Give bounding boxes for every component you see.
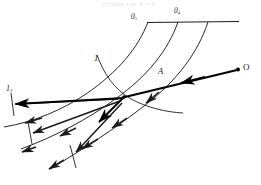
figure-canvas: статьи где θ = θ₀ — [0, 0, 261, 185]
radial-left-arrows — [15, 99, 122, 152]
principal-ray-arrow — [181, 77, 205, 83]
convergence-point — [122, 95, 126, 99]
ray-arrowheads — [22, 92, 159, 169]
label-wavefront-right: 04 — [174, 7, 180, 15]
ray-curve-2 — [21, 22, 178, 149]
arrow-curve3-outer — [49, 160, 64, 169]
ray-curve-1 — [4, 22, 148, 127]
arrow-down-left — [99, 97, 124, 122]
wavefront-line — [147, 22, 239, 23]
label-ray-one: 1 — [94, 54, 98, 63]
arrow-curve3-top — [146, 92, 159, 103]
ray-diagram-svg — [0, 0, 261, 185]
label-wavefront-left: 01 — [131, 13, 137, 21]
label-point-a-upper: A — [158, 67, 163, 76]
arrow-curve1-outer — [25, 118, 42, 123]
label-origin-o: O — [243, 63, 250, 72]
arrow-curve2-mid — [60, 128, 76, 136]
arrow-toward-a — [181, 77, 205, 83]
origin-dot — [236, 68, 240, 72]
label-point-a-lower: a — [104, 112, 108, 121]
label-ray-one-two: 12 — [6, 85, 12, 94]
arrow-curve3-inner — [112, 118, 127, 128]
arrow-left — [16, 98, 124, 104]
